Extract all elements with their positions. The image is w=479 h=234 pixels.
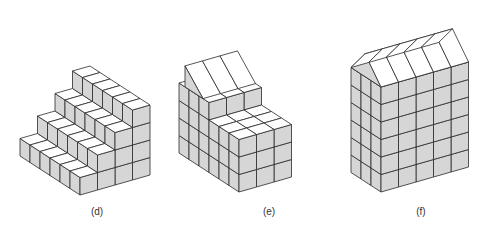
- figure-d-label: (d): [77, 206, 117, 217]
- figure-f-house: [351, 29, 469, 192]
- figure-d-staircase: [20, 66, 150, 195]
- figure-e-block: [179, 51, 292, 192]
- cube-figures-diagram: [0, 0, 479, 234]
- figure-e-label: (e): [249, 206, 289, 217]
- figure-f-label: (f): [401, 206, 441, 217]
